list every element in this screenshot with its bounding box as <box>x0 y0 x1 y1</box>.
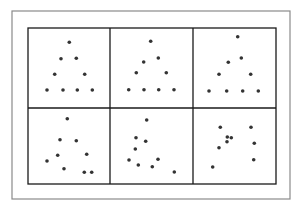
dot <box>157 88 161 92</box>
dot <box>59 57 63 61</box>
dot <box>165 71 169 75</box>
dot <box>134 147 138 151</box>
dot <box>142 88 146 92</box>
panel-4 <box>45 117 93 174</box>
dot <box>75 139 79 143</box>
dot <box>45 159 49 163</box>
dot <box>225 89 229 93</box>
dot <box>257 89 261 93</box>
dot <box>145 118 149 122</box>
dot <box>149 40 153 44</box>
dot <box>226 135 230 139</box>
dot <box>142 60 146 64</box>
dot <box>137 163 141 167</box>
dot <box>156 158 160 162</box>
dot <box>172 88 176 92</box>
dot <box>240 56 244 60</box>
dot <box>61 88 65 92</box>
dot <box>75 57 79 61</box>
dot <box>68 41 72 45</box>
dot <box>173 170 177 174</box>
dot <box>253 142 257 146</box>
dot <box>207 89 211 93</box>
dot <box>151 165 155 169</box>
dot <box>90 171 94 175</box>
dot <box>135 71 139 75</box>
panel-3 <box>207 35 260 93</box>
dot <box>62 167 66 171</box>
dot <box>45 88 49 92</box>
panel-6 <box>211 126 256 169</box>
panel-grid <box>28 28 276 184</box>
panel-5 <box>127 118 176 174</box>
dot <box>217 73 221 77</box>
dot <box>127 158 131 162</box>
dot <box>144 140 148 144</box>
dot <box>58 138 62 142</box>
dot <box>91 88 95 92</box>
dot-pattern-diagram <box>0 0 303 211</box>
dot <box>225 140 229 144</box>
dot <box>217 146 221 150</box>
dot <box>127 88 131 92</box>
dot <box>56 154 60 158</box>
dot <box>230 136 234 140</box>
dot <box>219 126 223 130</box>
panels-layer <box>45 35 260 174</box>
dot <box>76 88 80 92</box>
dot <box>249 126 253 130</box>
outer-frame <box>12 11 290 199</box>
panel-2 <box>127 40 176 92</box>
dot <box>85 153 89 157</box>
dot <box>227 61 231 65</box>
dot <box>83 171 87 175</box>
dot <box>83 73 87 77</box>
dot <box>157 56 161 60</box>
grid-border <box>28 28 276 184</box>
dot <box>211 165 215 169</box>
dot <box>53 73 57 77</box>
dot <box>249 73 253 77</box>
dot <box>134 136 138 140</box>
dot <box>66 117 70 121</box>
dot <box>241 89 245 93</box>
panel-1 <box>45 41 94 92</box>
dot <box>236 35 240 39</box>
dot <box>252 158 256 162</box>
